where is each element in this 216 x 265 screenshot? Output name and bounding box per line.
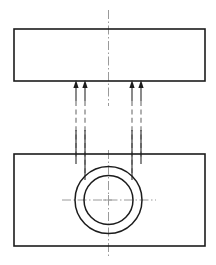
technical-drawing-canvas bbox=[0, 0, 216, 265]
top-view-rectangle bbox=[14, 29, 205, 81]
drawing-svg bbox=[0, 0, 216, 265]
